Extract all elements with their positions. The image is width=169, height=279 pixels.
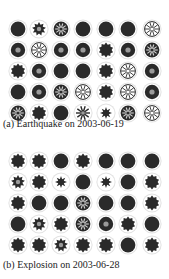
solid-glyph-icon [118,19,138,39]
spiky-glyph-icon [8,61,28,81]
spoke-light-glyph-icon [29,40,49,60]
star-dark-glyph-icon [51,235,71,255]
star-dark-glyph-icon [8,172,28,192]
ring-glyph-icon [96,214,116,234]
solid-glyph-icon [51,193,71,213]
ring-glyph-icon [51,40,71,60]
spiky-glyph-icon [29,151,49,171]
spoke-light-glyph-icon [118,61,138,81]
star-small-glyph-icon [96,172,116,192]
spiky-glyph-icon [118,214,138,234]
glyph-row [7,151,165,173]
spoke-dark-glyph-icon [142,40,162,60]
ring-glyph-icon [29,82,49,102]
ring-glyph-icon [142,61,162,81]
spiky-glyph-icon [8,235,28,255]
glyph-row [7,40,165,62]
spoke-light-glyph-icon [142,103,162,123]
spiky-glyph-icon [96,61,116,81]
ring-glyph-icon [142,82,162,102]
ring-glyph-icon [29,61,49,81]
spoke-dark-glyph-icon [51,19,71,39]
glyph-grid-explosion [7,151,165,256]
glyph-grid-earthquake [7,19,165,124]
ring-glyph-icon [73,40,93,60]
solid-glyph-icon [142,151,162,171]
spiky-glyph-icon [51,214,71,234]
spoke-dark-glyph-icon [51,82,71,102]
solid-glyph-icon [142,214,162,234]
spiky-glyph-icon [8,151,28,171]
spoke-light-glyph-icon [118,82,138,102]
solid-glyph-icon [73,19,93,39]
solid-glyph-icon [118,193,138,213]
caption-explosion: (b) Explosion on 2003-06-28 [3,259,119,270]
glyph-row [7,235,165,257]
spiky-glyph-icon [73,235,93,255]
solid-glyph-icon [118,235,138,255]
solid-glyph-icon [118,151,138,171]
solid-glyph-icon [51,151,71,171]
spiky-glyph-icon [29,235,49,255]
panel-earthquake: (a) Earthquake on 2003-06-19 [0,0,169,135]
spiky-glyph-icon [96,40,116,60]
panel-explosion: (b) Explosion on 2003-06-28 [0,140,169,279]
solid-glyph-icon [8,82,28,102]
spoke-dark-glyph-icon [73,193,93,213]
ring-glyph-icon [118,40,138,60]
glyph-row [7,82,165,104]
spoke-light-glyph-icon [142,19,162,39]
glyph-row [7,61,165,83]
spiky-glyph-icon [96,82,116,102]
solid-glyph-icon [51,61,71,81]
solid-glyph-icon [8,214,28,234]
spoke-light-glyph-icon [73,82,93,102]
spiky-glyph-icon [142,193,162,213]
solid-glyph-icon [73,61,93,81]
glyph-row [7,214,165,236]
star-small-glyph-icon [51,172,71,192]
solid-glyph-icon [96,19,116,39]
spiky-glyph-icon [96,235,116,255]
solid-glyph-icon [118,172,138,192]
spiky-glyph-icon [8,193,28,213]
solid-glyph-icon [96,151,116,171]
spoke-dark-glyph-icon [73,214,93,234]
solid-glyph-icon [96,193,116,213]
solid-glyph-icon [29,193,49,213]
solid-glyph-icon [8,19,28,39]
star-dark-glyph-icon [29,214,49,234]
solid-glyph-icon [73,172,93,192]
glyph-row [7,172,165,194]
caption-earthquake: (a) Earthquake on 2003-06-19 [3,118,124,129]
spiky-glyph-icon [29,172,49,192]
spiky-glyph-icon [142,172,162,192]
star-dark-glyph-icon [29,19,49,39]
spiky-glyph-icon [73,151,93,171]
spiky-glyph-icon [142,235,162,255]
glyph-row [7,19,165,41]
glyph-row [7,193,165,215]
ring-glyph-icon [8,40,28,60]
